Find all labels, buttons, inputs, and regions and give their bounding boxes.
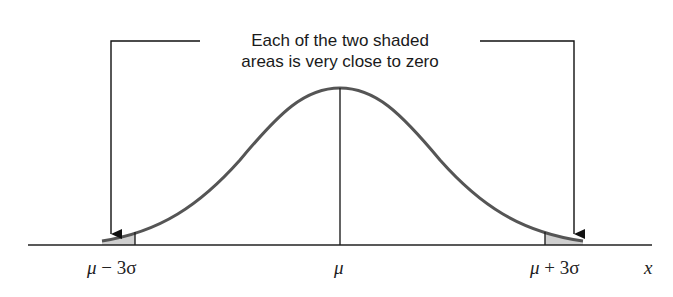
tick-label-mu: μ bbox=[334, 257, 344, 279]
annotation-text: Each of the two shaded areas is very clo… bbox=[200, 30, 480, 72]
bell-curve bbox=[102, 88, 583, 241]
annotation-line-2: areas is very close to zero bbox=[200, 51, 480, 72]
tick-label-mu-plus-3sigma: μ + 3σ bbox=[530, 257, 580, 279]
x-axis-label: x bbox=[644, 257, 652, 279]
tick-label-mu-minus-3sigma: μ − 3σ bbox=[87, 257, 137, 279]
annotation-line-1: Each of the two shaded bbox=[200, 30, 480, 51]
